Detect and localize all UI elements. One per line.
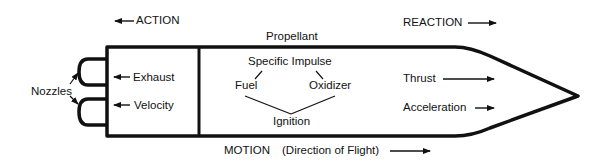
propellant-label: Propellant <box>266 31 318 43</box>
action-label: ACTION <box>136 15 179 27</box>
oxidizer-label: Oxidizer <box>309 80 351 92</box>
thrust-label: Thrust <box>403 73 436 85</box>
fuel-label: Fuel <box>235 80 257 92</box>
direction-label: (Direction of Flight) <box>282 145 379 157</box>
ignition-label: Ignition <box>273 116 310 128</box>
connector-oxidizer-ignition <box>291 96 335 114</box>
exhaust-label: Exhaust <box>133 72 175 84</box>
acceleration-label: Acceleration <box>403 102 466 114</box>
connector-fuel-ignition <box>245 96 291 114</box>
rocket-body <box>107 47 578 136</box>
rocket-diagram <box>0 0 605 168</box>
nozzles-pointer-top-icon <box>70 73 78 84</box>
velocity-label: Velocity <box>134 100 174 112</box>
reaction-label: REACTION <box>403 17 462 29</box>
nozzle-bottom <box>79 99 107 125</box>
connector-impulse-fuel <box>255 71 262 79</box>
connector-impulse-oxidizer <box>316 71 323 79</box>
nozzle-top <box>79 59 107 85</box>
motion-label: MOTION <box>224 145 270 157</box>
nozzles-label: Nozzles <box>31 86 72 98</box>
specific-impulse-label: Specific Impulse <box>248 56 332 68</box>
